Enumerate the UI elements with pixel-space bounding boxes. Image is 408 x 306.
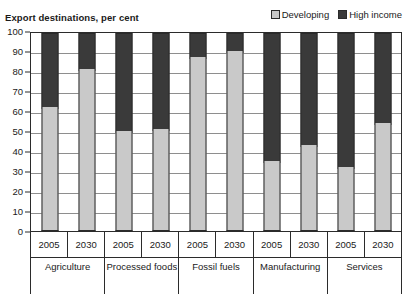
x-axis-year-label: 2030 — [142, 232, 179, 257]
bar-segment-developing — [152, 129, 169, 231]
x-axis-year-label: 2005 — [328, 232, 365, 257]
stacked-bar[interactable] — [300, 33, 317, 231]
legend-swatch-high-income-icon — [338, 10, 347, 19]
legend-item-developing: Developing — [271, 10, 330, 20]
stacked-bar[interactable] — [226, 33, 243, 231]
y-axis-tick-label: 90 — [12, 47, 23, 57]
bar-slot — [179, 33, 216, 231]
bar-segment-high-income — [226, 33, 243, 53]
bar-slot — [327, 33, 364, 231]
bars-layer — [31, 33, 401, 231]
stacked-bar[interactable] — [115, 33, 132, 231]
x-axis-category-label: Fossil fuels — [179, 258, 253, 294]
category-label-text: Manufacturing — [260, 262, 320, 273]
bar-segment-high-income — [300, 33, 317, 147]
x-axis-year-label: 2005 — [254, 232, 291, 257]
x-axis-category-label: Processed foods — [105, 258, 179, 294]
bar-segment-developing — [300, 145, 317, 231]
chart-header: Export destinations, per cent Developing… — [0, 0, 408, 30]
y-axis-tick-label: 20 — [12, 187, 23, 197]
x-axis-year-label: 2005 — [30, 232, 68, 257]
bar-segment-high-income — [115, 33, 132, 133]
x-axis-year-label: 2030 — [216, 232, 253, 257]
y-axis-tick-label: 0 — [18, 227, 23, 237]
bar-segment-high-income — [374, 33, 391, 125]
bar-slot — [253, 33, 290, 231]
bar-segment-high-income — [263, 33, 280, 163]
legend-label-developing: Developing — [282, 10, 330, 20]
bar-segment-developing — [41, 107, 58, 231]
bar-slot — [290, 33, 327, 231]
y-axis-tick-label: 10 — [12, 207, 23, 217]
legend-swatch-developing-icon — [271, 10, 280, 19]
bar-slot — [364, 33, 401, 231]
y-axis-tick-label: 60 — [12, 107, 23, 117]
y-axis-tick-label: 100 — [7, 27, 23, 37]
category-label-text: Processed foods — [106, 262, 177, 273]
x-axis-year-label: 2005 — [105, 232, 142, 257]
category-label-text: Fossil fuels — [192, 262, 240, 273]
y-axis-tick-label: 40 — [12, 147, 23, 157]
bar-segment-high-income — [41, 33, 58, 109]
stacked-bar[interactable] — [263, 33, 280, 231]
bar-segment-developing — [337, 167, 354, 231]
bar-segment-high-income — [78, 33, 95, 71]
y-axis-tick-label: 30 — [12, 167, 23, 177]
y-axis-tick-label: 50 — [12, 127, 23, 137]
bar-segment-developing — [374, 123, 391, 231]
x-axis-category-label: Services — [328, 258, 402, 294]
category-label-text: Services — [346, 262, 382, 273]
bar-segment-developing — [189, 57, 206, 231]
legend-item-high-income: High income — [338, 10, 402, 20]
stacked-bar[interactable] — [152, 33, 169, 231]
bar-segment-developing — [115, 131, 132, 231]
y-axis-tick-label: 70 — [12, 87, 23, 97]
stacked-bar[interactable] — [337, 33, 354, 231]
bar-slot — [216, 33, 253, 231]
stacked-bar[interactable] — [189, 33, 206, 231]
stacked-bar[interactable] — [41, 33, 58, 231]
x-axis-category-row: AgricultureProcessed foodsFossil fuelsMa… — [30, 258, 402, 294]
stacked-bar[interactable] — [374, 33, 391, 231]
bar-slot — [142, 33, 179, 231]
bar-segment-developing — [78, 69, 95, 231]
bar-segment-high-income — [189, 33, 206, 59]
legend-label-high-income: High income — [349, 10, 402, 20]
category-label-text: Agriculture — [45, 262, 90, 273]
x-axis-year-row: 2005203020052030200520302005203020052030 — [30, 232, 402, 258]
bar-segment-high-income — [152, 33, 169, 131]
bar-slot — [31, 33, 68, 231]
x-axis-year-label: 2030 — [365, 232, 402, 257]
x-axis-category-label: Agriculture — [30, 258, 105, 294]
y-axis: 0102030405060708090100 — [0, 32, 30, 232]
x-axis-year-label: 2030 — [68, 232, 105, 257]
chart-plot-wrapper: 0102030405060708090100 20052030200520302… — [0, 32, 408, 306]
bar-slot — [68, 33, 105, 231]
bar-slot — [105, 33, 142, 231]
stacked-bar[interactable] — [78, 33, 95, 231]
chart-title: Export destinations, per cent — [5, 12, 139, 23]
bar-segment-developing — [263, 161, 280, 231]
plot-area — [30, 32, 402, 232]
x-axis: 2005203020052030200520302005203020052030… — [30, 232, 402, 294]
x-axis-year-label: 2005 — [179, 232, 216, 257]
chart-legend: Developing High income — [271, 10, 402, 20]
bar-segment-high-income — [337, 33, 354, 169]
x-axis-category-label: Manufacturing — [254, 258, 328, 294]
bar-segment-developing — [226, 51, 243, 231]
x-axis-year-label: 2030 — [291, 232, 328, 257]
y-axis-tick-label: 80 — [12, 67, 23, 77]
